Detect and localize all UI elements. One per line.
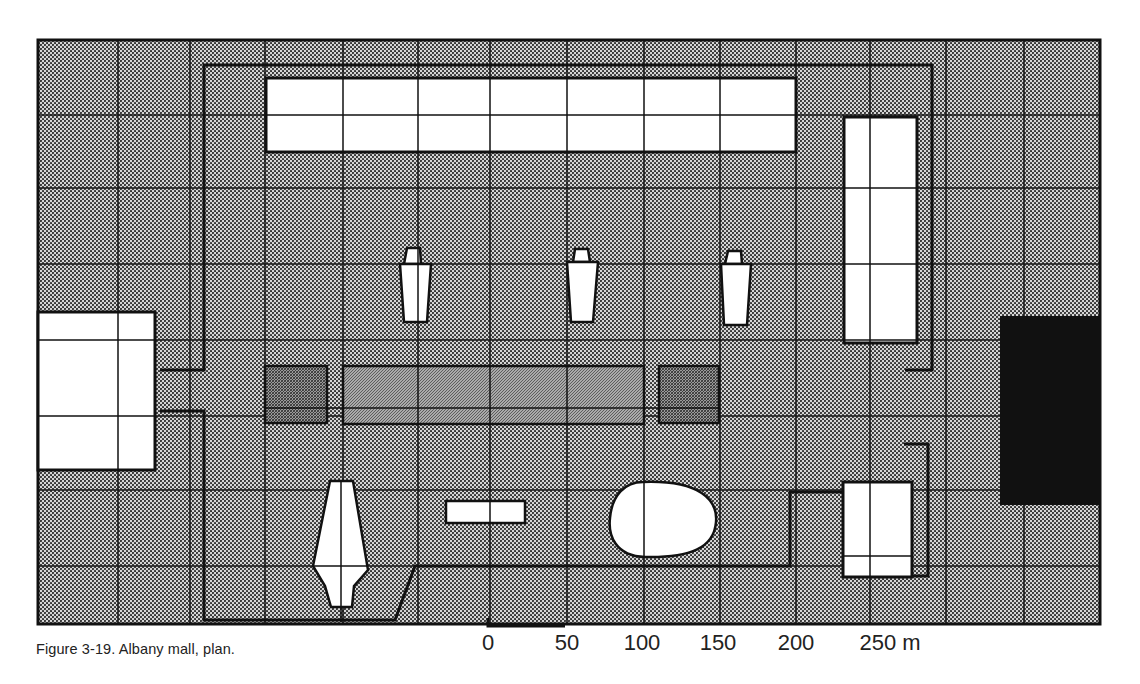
scale-label-100: 100 <box>624 630 661 656</box>
scale-label-0: 0 <box>482 630 494 656</box>
albany-mall-plan <box>0 0 1140 684</box>
scale-label-200: 200 <box>778 630 815 656</box>
small-pavilion <box>446 501 525 523</box>
central-pool-left <box>265 366 327 423</box>
west-square-block <box>38 312 155 470</box>
north-long-block <box>266 78 796 152</box>
egg-auditorium <box>610 482 716 557</box>
east-dark-block <box>1000 316 1100 505</box>
scale-label-150: 150 <box>700 630 737 656</box>
east-tall-block <box>844 117 917 343</box>
scale-label-50: 50 <box>555 630 579 656</box>
scale-label-250m: 250 m <box>859 630 920 656</box>
central-pool-right <box>659 366 719 423</box>
figure-caption: Figure 3-19. Albany mall, plan. <box>36 641 235 657</box>
southeast-block <box>843 482 912 577</box>
central-pool-middle <box>343 366 644 424</box>
